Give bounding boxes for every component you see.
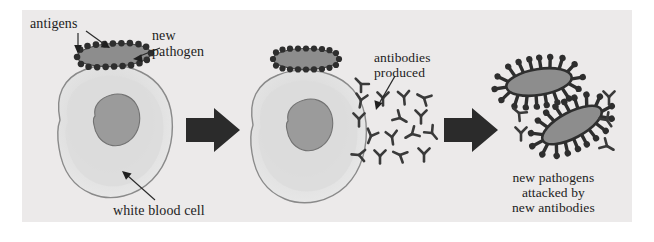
antibody xyxy=(418,148,429,161)
pathogen-a xyxy=(487,48,590,117)
antibody xyxy=(424,125,441,142)
antibody xyxy=(415,110,426,123)
antibody xyxy=(599,138,616,154)
antibody xyxy=(415,90,432,106)
label-white-blood-cell: white blood cell xyxy=(113,203,205,219)
antibody xyxy=(374,150,385,163)
antibody xyxy=(398,91,410,105)
label-antibodies-produced: antibodies produced xyxy=(374,50,431,80)
antibody xyxy=(352,75,369,92)
label-antigens: antigens xyxy=(30,16,77,32)
new-pathogen xyxy=(270,45,342,72)
antibody xyxy=(403,126,420,142)
antibody xyxy=(391,147,408,163)
antibody xyxy=(515,127,526,140)
arrow-stage1-to-stage2 xyxy=(186,108,240,152)
nucleus xyxy=(93,94,139,146)
antibody xyxy=(603,91,614,104)
antibody xyxy=(386,131,399,146)
antibody xyxy=(392,110,409,126)
nucleus xyxy=(286,99,332,151)
label-result-caption: new pathogens attacked by new antibodies xyxy=(512,170,595,215)
stage-3-group xyxy=(487,48,626,172)
label-new-pathogen: new pathogen xyxy=(152,28,204,59)
immune-response-diagram: antigens new pathogen antibodies produce… xyxy=(0,0,654,242)
arrow-stage2-to-stage3 xyxy=(444,108,498,152)
